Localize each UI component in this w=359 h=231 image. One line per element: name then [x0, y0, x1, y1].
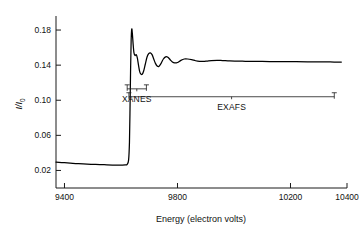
x-tick-label: 9800 — [168, 192, 187, 202]
x-tick-label: 10400 — [335, 192, 359, 202]
y-axis-title-sub: 0 — [19, 98, 26, 102]
y-tick-label: 0.06 — [34, 130, 51, 140]
chart-canvas: 940098001020010400 0.020.060.100.140.18 … — [0, 0, 359, 231]
y-axis-ticks: 0.020.060.100.140.18 — [34, 25, 61, 175]
annotation-exafs: EXAFS — [126, 93, 336, 112]
region-annotations: XANESEXAFS — [122, 85, 337, 112]
svg-text:I/I0: I/I0 — [14, 98, 26, 110]
annotation-label-xanes: XANES — [122, 94, 152, 104]
annotation-label-exafs: EXAFS — [217, 102, 246, 112]
y-tick-label: 0.18 — [34, 25, 51, 35]
y-tick-label: 0.10 — [34, 95, 51, 105]
y-tick-label: 0.14 — [34, 60, 51, 70]
annotation-xanes: XANES — [122, 85, 152, 104]
y-axis-title: I/I0 — [14, 98, 26, 110]
y-tick-label: 0.02 — [34, 165, 51, 175]
x-tick-label: 10200 — [279, 192, 303, 202]
x-tick-label: 9400 — [55, 192, 74, 202]
xafs-spectrum-chart: 940098001020010400 0.020.060.100.140.18 … — [0, 0, 359, 231]
x-axis-title: Energy (electron volts) — [156, 214, 246, 224]
x-axis-ticks: 940098001020010400 — [55, 183, 359, 202]
